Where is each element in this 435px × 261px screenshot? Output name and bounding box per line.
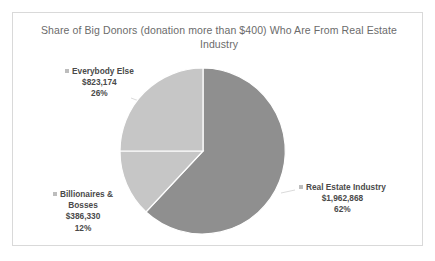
pie-plot-area: Everybody Else $823,174 26% Billionaires… <box>13 13 422 245</box>
pie-label-everybody-else-value: $823,174 <box>65 77 134 88</box>
pie-label-billionaires-bosses-value: $386,330 <box>53 211 113 222</box>
pie-label-everybody-else: Everybody Else $823,174 26% <box>65 66 134 100</box>
square-bullet-icon <box>53 192 57 196</box>
pie-label-real-estate-industry-value: $1,962,868 <box>299 193 386 204</box>
pie-label-billionaires-bosses-name2: Bosses <box>53 200 113 211</box>
pie-label-billionaires-bosses: Billionaires & Bosses $386,330 12% <box>53 189 113 234</box>
square-bullet-icon <box>299 185 303 189</box>
pie-label-real-estate-industry-percent: 62% <box>299 204 386 215</box>
pie-label-everybody-else-name: Everybody Else <box>65 66 134 77</box>
chart-frame: Share of Big Donors (donation more than … <box>12 12 423 246</box>
pie-label-real-estate-industry: Real Estate Industry $1,962,868 62% <box>299 182 386 216</box>
square-bullet-icon <box>65 69 69 73</box>
pie-label-real-estate-industry-name: Real Estate Industry <box>299 182 386 193</box>
leader-line-realestate <box>281 190 295 193</box>
pie-label-everybody-else-percent: 26% <box>65 88 134 99</box>
pie-label-billionaires-bosses-percent: 12% <box>53 223 113 234</box>
pie-label-billionaires-bosses-name: Billionaires & <box>53 189 113 200</box>
